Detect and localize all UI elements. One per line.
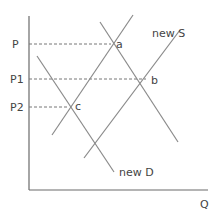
supply-line bbox=[52, 15, 133, 135]
x-axis-label: Q bbox=[200, 198, 209, 211]
price-label-p2: P2 bbox=[10, 101, 24, 114]
price-label-p1: P1 bbox=[10, 73, 24, 86]
demand-line bbox=[37, 56, 114, 172]
price-label-p: P bbox=[12, 38, 19, 51]
new-supply-label: new S bbox=[152, 27, 185, 40]
point-label-b: b bbox=[151, 74, 158, 87]
new-demand-label: new D bbox=[119, 166, 154, 179]
supply-demand-diagram: P P1 P2 a b c new S new D Q bbox=[0, 0, 219, 216]
point-label-c: c bbox=[75, 100, 81, 113]
new-supply-line bbox=[84, 30, 180, 158]
point-label-a: a bbox=[116, 38, 123, 51]
high-demand-line bbox=[100, 22, 178, 142]
